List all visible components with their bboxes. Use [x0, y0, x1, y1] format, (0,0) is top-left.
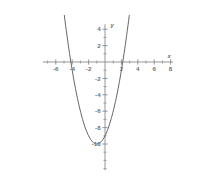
x-axis-label: x — [166, 53, 171, 59]
y-tick-label: 4 — [97, 25, 101, 32]
x-tick-label: -2 — [86, 65, 92, 72]
y-tick-label: -8 — [95, 124, 101, 131]
x-tick-label: -6 — [53, 65, 59, 72]
y-tick-label: -4 — [95, 91, 101, 98]
x-tick-label: -4 — [69, 65, 75, 72]
y-tick-label: -2 — [95, 75, 101, 82]
y-tick-label: -6 — [95, 107, 101, 114]
x-tick-label: 4 — [136, 65, 140, 72]
x-tick-label: 6 — [152, 65, 156, 72]
y-axis-label: y — [109, 22, 114, 28]
parabola-graph-figure: -6-4-2246842-2-4-6-8-10xy — [0, 0, 201, 185]
y-tick-label: -10 — [92, 140, 102, 147]
x-tick-label: 8 — [169, 65, 173, 72]
x-tick-label: 2 — [120, 65, 124, 72]
coordinate-plane: -6-4-2246842-2-4-6-8-10xy — [0, 0, 201, 185]
y-tick-label: 2 — [97, 42, 101, 49]
